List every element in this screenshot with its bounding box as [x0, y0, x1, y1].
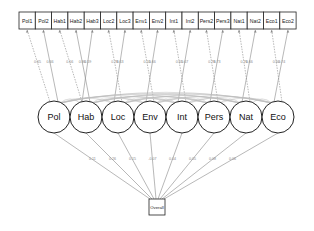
- loading-label: 0.74: [278, 60, 285, 64]
- arrowhead-icon: [140, 30, 143, 33]
- latent-node: Pers: [198, 101, 230, 133]
- latent-label: Env: [142, 112, 158, 122]
- latent-label: Loc: [111, 112, 126, 122]
- indicator-label: Hab2: [70, 18, 83, 24]
- loading-edge: [242, 30, 255, 102]
- indicator-node: Eco2: [280, 12, 296, 29]
- loading-label: 0.73: [214, 60, 221, 64]
- indicator-label: Loc3: [119, 18, 130, 24]
- indicator-node: Pol1: [19, 12, 35, 29]
- structural-label: 0.11: [89, 157, 96, 161]
- latent-label: Nat: [239, 112, 254, 122]
- loading-edge: [272, 30, 282, 102]
- indicator-label: Eco2: [282, 18, 294, 24]
- loading-edge: [109, 30, 122, 102]
- arrowhead-icon: [26, 30, 29, 33]
- outcome-label: Overall: [150, 205, 163, 210]
- arrowhead-icon: [58, 30, 61, 33]
- arrowhead-icon: [107, 30, 110, 33]
- loading-edge: [274, 30, 288, 102]
- arrowhead-icon: [189, 30, 192, 33]
- indicator-label: Hab1: [54, 18, 67, 24]
- structural-edge: [54, 133, 150, 199]
- loading-label: 0.65: [34, 60, 41, 64]
- latent-row: PolHabLocEnvIntPersNatEco: [38, 101, 294, 133]
- indicator-label: Int2: [186, 18, 195, 24]
- indicator-node: Hab1: [52, 12, 68, 29]
- structural-edge: [86, 133, 152, 199]
- latent-label: Pers: [205, 112, 224, 122]
- loading-edge: [210, 30, 223, 102]
- indicator-label: Env1: [135, 18, 147, 24]
- loading-edge: [43, 30, 58, 102]
- latent-node: Pol: [38, 101, 70, 133]
- indicator-node: Nat2: [247, 12, 263, 29]
- structural-label: 0.04: [169, 157, 176, 161]
- loading-edge: [239, 30, 250, 102]
- loading-edge: [60, 30, 82, 102]
- structural-label: -0.07: [148, 157, 156, 161]
- loading-label: 0.59: [84, 60, 91, 64]
- indicator-label: Hab3: [86, 18, 99, 24]
- indicator-node: Nat1: [231, 12, 247, 29]
- indicator-node: Loc3: [117, 12, 133, 29]
- arrowhead-icon: [173, 30, 176, 33]
- loading-edge: [27, 30, 50, 102]
- indicator-node: Int2: [182, 12, 198, 29]
- indicator-label: Nat2: [250, 18, 261, 24]
- indicator-node: Hab2: [68, 12, 84, 29]
- latent-node: Int: [166, 101, 198, 133]
- arrowhead-icon: [124, 30, 127, 33]
- indicator-node: Loc2: [101, 12, 117, 29]
- latent-label: Int: [177, 112, 188, 122]
- sem-diagram: 0.650.660.560.860.590.780.630.550.660.65…: [0, 0, 314, 231]
- arrowhead-icon: [270, 30, 273, 33]
- loading-label: 0.67: [181, 60, 188, 64]
- arrowhead-icon: [205, 30, 208, 33]
- arrowhead-icon: [287, 30, 290, 33]
- structural-label: 0.08: [209, 157, 216, 161]
- structural-edge: [160, 133, 214, 199]
- loading-label: 0.63: [117, 60, 124, 64]
- structural-label: 0.05: [189, 157, 196, 161]
- loading-label: 0.66: [246, 60, 253, 64]
- loading-label: 0.66: [149, 60, 156, 64]
- arrowhead-icon: [91, 30, 94, 33]
- loading-edge: [114, 30, 125, 102]
- arrowhead-icon: [156, 30, 159, 33]
- indicator-label: Eco1: [266, 18, 278, 24]
- arrowhead-icon: [221, 30, 224, 33]
- arrowhead-icon: [254, 30, 257, 33]
- indicator-node: Env1: [133, 12, 149, 29]
- arrowhead-icon: [75, 30, 78, 33]
- indicator-row: Pol1Pol2Hab1Hab2Hab3Loc2Loc3Env1Env2Int1…: [19, 12, 296, 29]
- structural-edge: [158, 133, 182, 199]
- indicator-label: Loc2: [103, 18, 114, 24]
- latent-node: Eco: [262, 101, 294, 133]
- structural-edge: [164, 133, 278, 199]
- arrowhead-icon: [42, 30, 45, 33]
- indicator-node: Pers2: [198, 12, 214, 29]
- indicator-node: Int1: [166, 12, 182, 29]
- structural-label: 0.15: [129, 157, 136, 161]
- outcome-node: Overall: [149, 199, 165, 215]
- indicator-label: Pers3: [216, 18, 230, 24]
- loading-label: 0.56: [66, 60, 73, 64]
- latent-node: Loc: [102, 101, 134, 133]
- latent-node: Nat: [230, 101, 262, 133]
- latent-node: Hab: [70, 101, 102, 133]
- indicator-label: Nat1: [234, 18, 245, 24]
- indicator-node: Hab3: [84, 12, 100, 29]
- latent-label: Hab: [78, 112, 95, 122]
- indicator-label: Pol1: [22, 18, 32, 24]
- structural-edge: [162, 133, 246, 199]
- latent-label: Eco: [270, 112, 286, 122]
- indicator-node: Eco1: [264, 12, 280, 29]
- indicator-label: Env2: [152, 18, 164, 24]
- indicator-label: Int1: [170, 18, 179, 24]
- indicator-node: Pers3: [215, 12, 231, 29]
- latent-node: Env: [134, 101, 166, 133]
- structural-label: 0.06: [229, 157, 236, 161]
- structural-edge: [150, 133, 156, 199]
- indicator-label: Pers2: [200, 18, 214, 24]
